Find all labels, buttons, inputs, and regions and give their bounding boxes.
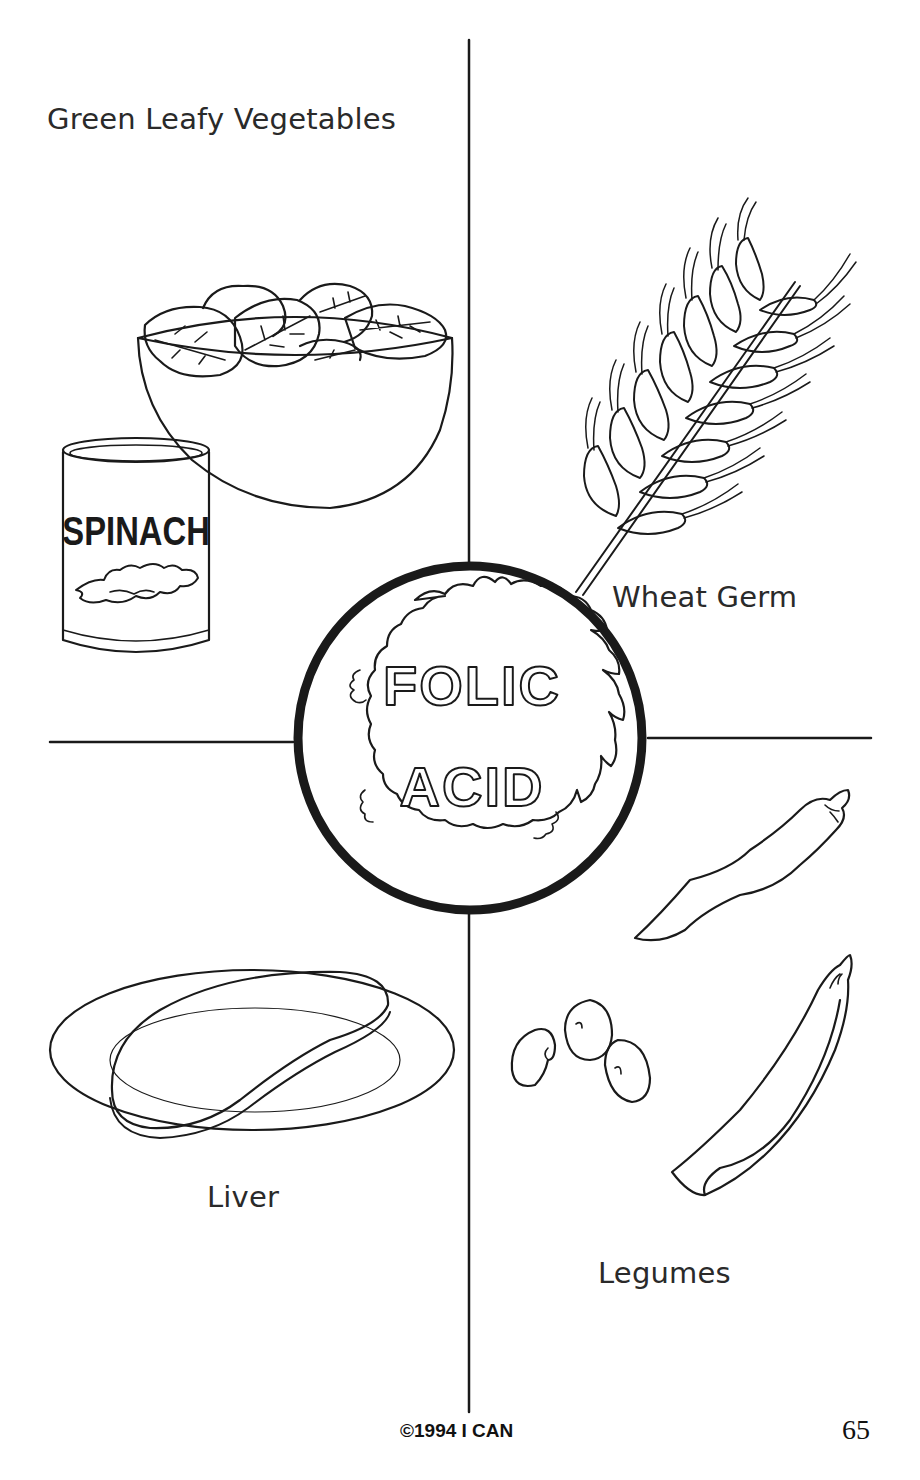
page-number: 65 [842,1414,870,1446]
label-legumes: Legumes [598,1256,731,1290]
wheat-stalk-drawing [576,198,856,595]
label-green-leafy-vegetables: Green Leafy Vegetables [47,102,396,136]
copyright-notice: ©1994 I CAN [400,1420,513,1442]
legumes-drawing [512,790,852,1195]
liver-plate-drawing [50,970,454,1138]
coloring-page-illustration: FOLIC ACID [0,0,920,1480]
folic-acid-badge: FOLIC ACID [298,566,642,910]
quadrant-dividers [50,40,871,1412]
label-wheat-germ: Wheat Germ [612,580,797,614]
center-title-line2: ACID [400,755,545,818]
center-title-line1: FOLIC [383,654,561,717]
label-liver: Liver [207,1180,279,1214]
spinach-can-label: SPINACH [62,509,210,554]
spinach-bowl-drawing [138,284,453,508]
